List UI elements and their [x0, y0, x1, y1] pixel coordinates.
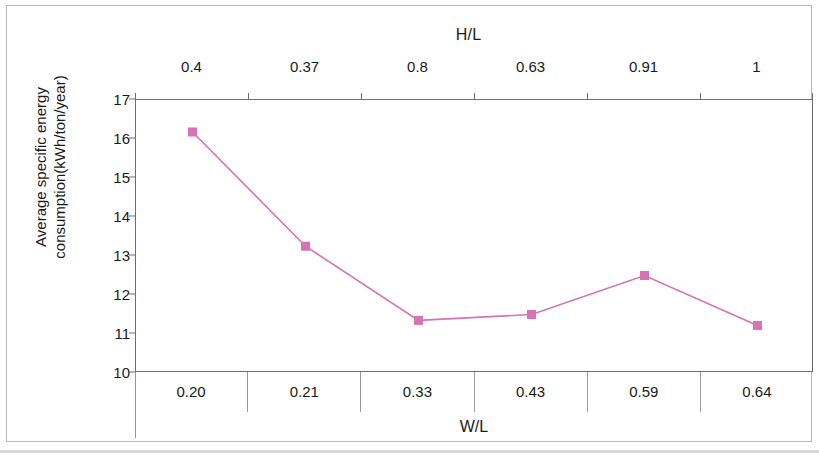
series-polyline [193, 132, 758, 325]
top-axis-title: H/L [0, 26, 819, 44]
y-tick-label: 11 [114, 325, 130, 342]
y-axis-tick-labels: 1011121314151617 [96, 99, 130, 372]
y-tick-label: 14 [113, 208, 130, 225]
y-tick-label: 10 [113, 364, 130, 381]
data-point-marker [527, 310, 536, 319]
data-point-marker [188, 127, 197, 136]
scan-edge [0, 450, 819, 453]
plot-area [135, 99, 813, 372]
x-axis-title: W/L [135, 418, 813, 436]
data-point-marker [414, 316, 423, 325]
data-point-marker [301, 242, 310, 251]
x-tick-label: 0.59 [587, 372, 700, 412]
top-tick-label: 0.91 [587, 58, 700, 75]
top-tick-label: 0.4 [135, 58, 248, 75]
x-axis-category-band: 0.20 0.21 0.33 0.43 0.59 0.64 [135, 372, 813, 412]
x-tick-label: 0.21 [247, 372, 360, 412]
top-tick-label: 0.8 [361, 58, 474, 75]
top-axis-tick-labels: 0.4 0.37 0.8 0.63 0.91 1 [135, 58, 813, 75]
top-tick-label: 0.37 [248, 58, 361, 75]
y-axis-title-line2: consumption(kWh/ton/year) [50, 29, 69, 305]
y-tick-label: 13 [113, 247, 130, 264]
top-tick-label: 0.63 [474, 58, 587, 75]
data-point-marker [640, 271, 649, 280]
data-point-marker [753, 321, 762, 330]
x-tick-label: 0.20 [135, 372, 247, 412]
x-tick-label: 0.33 [360, 372, 473, 412]
top-tick-label: 1 [700, 58, 813, 75]
y-tick-label: 15 [113, 169, 130, 186]
data-series-line [136, 100, 814, 373]
y-axis-title-line1: Average specific energy [31, 29, 50, 305]
y-tick-label: 12 [113, 286, 130, 303]
x-tick-label: 0.64 [700, 372, 813, 412]
x-tick-label: 0.43 [474, 372, 587, 412]
y-tick-label: 17 [113, 91, 130, 108]
y-axis-title: Average specific energy consumption(kWh/… [31, 29, 69, 305]
y-tick-label: 16 [113, 130, 130, 147]
chart-figure: H/L 0.4 0.37 0.8 0.63 0.91 1 10111213141… [0, 0, 819, 467]
